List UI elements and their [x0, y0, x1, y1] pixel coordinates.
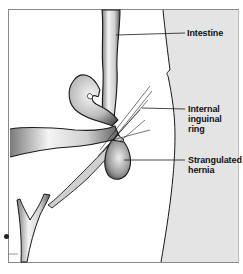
label-line: hernia: [188, 165, 242, 175]
label-line: inguinal: [188, 114, 222, 124]
label-internal-inguinal-ring: Internal inguinal ring: [188, 104, 222, 134]
label-intestine: Intestine: [187, 28, 223, 38]
abdominal-wall-panel: [161, 10, 238, 262]
label-line: Strangulated: [188, 155, 242, 165]
hernia-illustration: [0, 0, 243, 274]
lower-tube: [17, 194, 50, 262]
label-line: Internal: [188, 104, 222, 114]
label-strangulated-hernia: Strangulated hernia: [188, 155, 242, 175]
intestine-vertical: [102, 10, 120, 118]
margin-dot: [4, 234, 9, 239]
intestine-loop-hole: [87, 94, 92, 99]
label-line: ring: [188, 124, 222, 134]
